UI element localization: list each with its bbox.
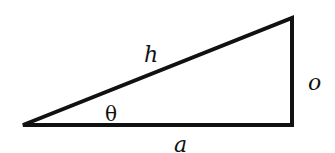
adjacent-label: a bbox=[174, 132, 187, 153]
angle-label: θ bbox=[105, 102, 117, 126]
hypotenuse-label: h bbox=[144, 42, 158, 67]
triangle-shape bbox=[23, 18, 292, 125]
opposite-label: o bbox=[308, 70, 321, 95]
right-triangle-diagram: h o θ a bbox=[0, 0, 335, 153]
